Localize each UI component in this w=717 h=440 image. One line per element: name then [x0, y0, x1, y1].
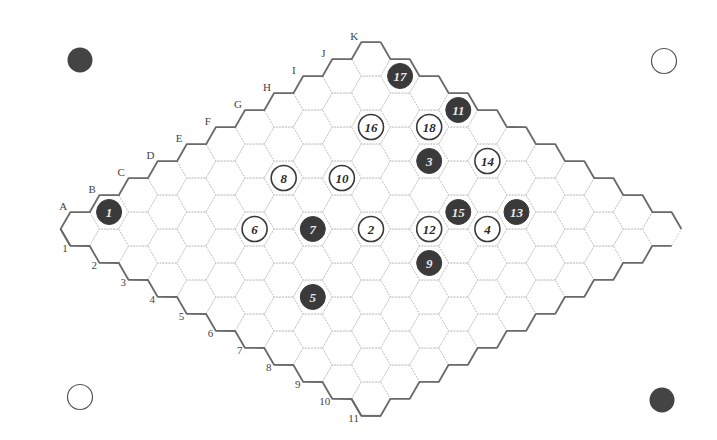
column-label-B: B	[88, 183, 95, 195]
stone-move-8: 8	[271, 166, 296, 191]
move-number: 12	[423, 222, 437, 237]
row-label-7: 7	[237, 344, 243, 356]
row-label-6: 6	[208, 327, 214, 339]
move-number: 1	[106, 205, 113, 220]
corner-bottom-right-black-circle-icon	[650, 388, 675, 413]
move-number: 7	[310, 222, 317, 237]
column-label-A: A	[59, 200, 67, 212]
stone-move-18: 18	[417, 115, 442, 140]
move-number: 11	[452, 103, 464, 118]
move-number: 13	[510, 205, 524, 220]
stone-move-1: 1	[97, 200, 122, 225]
move-number: 9	[426, 256, 433, 271]
move-number: 3	[425, 154, 433, 169]
move-number: 17	[394, 69, 408, 84]
row-label-11: 11	[348, 412, 359, 424]
move-number: 2	[367, 222, 375, 237]
row-label-4: 4	[150, 293, 156, 305]
corner-top-left-black-circle-icon	[68, 48, 93, 73]
stone-move-12: 12	[417, 217, 442, 242]
stone-move-16: 16	[359, 115, 384, 140]
move-number: 10	[335, 171, 349, 186]
row-label-9: 9	[295, 378, 301, 390]
stone-move-14: 14	[475, 149, 500, 174]
row-label-3: 3	[121, 276, 127, 288]
row-label-10: 10	[319, 395, 331, 407]
move-number: 4	[483, 222, 491, 237]
stone-move-13: 13	[504, 200, 529, 225]
move-number: 8	[280, 171, 287, 186]
row-label-5: 5	[179, 310, 185, 322]
stone-move-11: 11	[446, 98, 471, 123]
stone-move-17: 17	[388, 64, 413, 89]
stone-move-9: 9	[417, 251, 442, 276]
column-label-D: D	[147, 149, 155, 161]
column-label-C: C	[118, 166, 125, 178]
stone-move-6: 6	[242, 217, 267, 242]
stone-move-5: 5	[300, 285, 325, 310]
corner-top-right-white-circle-icon	[652, 49, 677, 74]
column-label-K: K	[350, 30, 358, 42]
move-number: 14	[481, 154, 495, 169]
column-label-G: G	[234, 98, 242, 110]
row-label-2: 2	[91, 259, 97, 271]
corner-bottom-left-white-circle-icon	[68, 385, 93, 410]
stone-move-10: 10	[329, 166, 354, 191]
move-number: 16	[365, 120, 379, 135]
column-label-F: F	[205, 115, 211, 127]
stone-move-7: 7	[300, 217, 325, 242]
move-number: 5	[310, 290, 317, 305]
row-label-1: 1	[62, 242, 68, 254]
column-label-I: I	[292, 64, 296, 76]
column-label-J: J	[321, 47, 326, 59]
column-label-E: E	[176, 132, 183, 144]
move-number: 6	[251, 222, 258, 237]
move-number: 18	[423, 120, 437, 135]
stone-move-2: 2	[359, 217, 384, 242]
hex-board: ABCDEFGHIJK1234567891011 123456789101112…	[0, 0, 717, 440]
column-label-H: H	[263, 81, 271, 93]
stone-move-3: 3	[417, 149, 442, 174]
stone-move-4: 4	[475, 217, 500, 242]
stone-move-15: 15	[446, 200, 471, 225]
move-number: 15	[452, 205, 466, 220]
row-label-8: 8	[266, 361, 272, 373]
